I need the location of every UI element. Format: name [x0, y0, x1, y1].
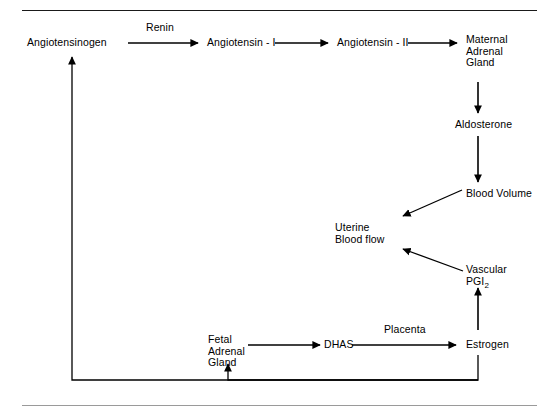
node-angiotensin-ii: Angiotensin - II	[337, 37, 409, 49]
node-aldosterone: Aldosterone	[455, 119, 512, 131]
node-uterine-blood-flow: Uterine Blood flow	[335, 222, 384, 245]
edge-label-renin: Renin	[146, 22, 174, 34]
node-angiotensin-i: Angiotensin - I	[207, 37, 276, 49]
node-dhas: DHAS	[324, 339, 354, 351]
node-fetal-adrenal-gland-line-3: Gland	[208, 357, 245, 369]
node-angiotensinogen: Angiotensinogen	[27, 37, 107, 49]
node-vascular-pgi2-line-2: PGI2	[466, 276, 507, 288]
node-maternal-adrenal-gland-line-1: Maternal	[466, 34, 508, 46]
node-maternal-adrenal-gland: Maternal Adrenal Gland	[466, 34, 508, 69]
node-blood-volume: Blood Volume	[466, 188, 532, 200]
node-estrogen: Estrogen	[466, 339, 509, 351]
node-uterine-blood-flow-line-2: Blood flow	[335, 234, 384, 246]
edge-label-placenta: Placenta	[384, 324, 426, 336]
edge-vascular-pgi2-to-uterine-blood-flow	[403, 249, 463, 271]
diagram-canvas: Angiotensinogen Renin Angiotensin - I An…	[0, 0, 560, 416]
node-uterine-blood-flow-line-1: Uterine	[335, 222, 384, 234]
node-vascular-pgi2-formula: PGI	[466, 275, 484, 287]
edge-blood-volume-to-uterine-blood-flow	[403, 190, 462, 216]
node-fetal-adrenal-gland-line-1: Fetal	[208, 334, 245, 346]
node-vascular-pgi2-subscript: 2	[484, 281, 489, 290]
node-maternal-adrenal-gland-line-3: Gland	[466, 57, 508, 69]
node-vascular-pgi2: Vascular PGI2	[466, 264, 507, 287]
node-fetal-adrenal-gland: Fetal Adrenal Gland	[208, 334, 245, 369]
edge-estrogen-feedback-to-fetal-adrenal-gland	[228, 355, 478, 380]
